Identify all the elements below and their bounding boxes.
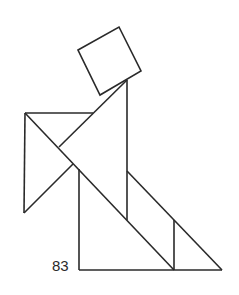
square-piece [78, 27, 141, 95]
left-triangle-side [24, 113, 25, 213]
tangram-figure [0, 0, 239, 295]
left-triangle-bottom [24, 164, 73, 213]
figure-number: 83 [52, 257, 69, 274]
long-diagonal [25, 113, 174, 270]
